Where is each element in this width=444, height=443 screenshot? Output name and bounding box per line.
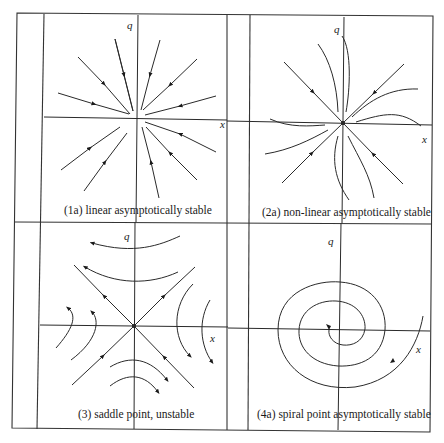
x-axis-label: x (415, 343, 421, 355)
panel-3: q x (3) saddle point, unstable (40, 222, 228, 429)
q-axis-label: q (334, 23, 340, 35)
panel-caption: (3) saddle point, unstable (78, 408, 194, 421)
panel-2a: q x (2a) non-linear asymptotically stabl… (227, 17, 432, 223)
panel-4a: q x (4a) spiral point asymptotically sta… (228, 223, 431, 430)
phase-portrait-figure: q x (1a) linear asymptotically stable q … (0, 0, 444, 443)
q-axis-label: q (124, 230, 130, 242)
q-axis-label: q (328, 235, 334, 247)
x-axis (44, 117, 227, 120)
q-axis (338, 223, 341, 430)
x-axis-label: x (209, 332, 215, 344)
x-axis (227, 121, 432, 125)
figure-frame (12, 13, 433, 432)
panel-1a: q x (1a) linear asymptotically stable (44, 15, 227, 222)
panel-caption: (2a) non-linear asymptotically stable (262, 206, 431, 219)
spiral-trajectory (278, 282, 423, 388)
panel-caption: (1a) linear asymptotically stable (64, 204, 212, 217)
x-axis-label: x (219, 118, 225, 130)
panel-caption: (4a) spiral point asymptotically stable (257, 408, 431, 421)
x-axis-label: x (421, 133, 427, 145)
q-axis-label: q (127, 19, 133, 31)
